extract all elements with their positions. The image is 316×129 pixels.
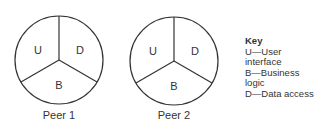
peer-2-segment-b: B: [170, 80, 177, 92]
peer-2-divider-right: [174, 61, 212, 83]
peer-2-segment-d: D: [191, 45, 199, 57]
peer-1-diagram: U D B Peer 1: [15, 16, 103, 121]
key-legend: Key U—User interface B—Business logic D—…: [245, 36, 316, 99]
peer-1-segment-d: D: [76, 44, 84, 56]
key-item-business-logic: B—Business logic: [245, 68, 316, 89]
key-item-user-interface: U—User interface: [245, 47, 316, 68]
peer-2-segment-u: U: [149, 45, 157, 57]
peer-2-divider-left: [136, 61, 174, 83]
key-item-data-access: D—Data access: [245, 89, 316, 100]
key-title: Key: [245, 36, 316, 47]
peer-1-divider-left: [21, 60, 59, 82]
peer-1-segment-u: U: [34, 44, 42, 56]
peer-2-caption: Peer 2: [158, 109, 190, 121]
peer-1-divider-right: [59, 60, 97, 82]
peer-1-segment-b: B: [55, 79, 62, 91]
peer-2-diagram: U D B Peer 2: [130, 17, 218, 121]
peer-1-caption: Peer 1: [43, 109, 75, 121]
